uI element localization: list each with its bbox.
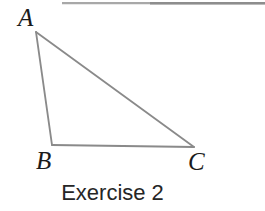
vertex-label-b: B (36, 148, 51, 173)
geometry-figure: A B C Exercise 2 (0, 0, 265, 211)
vertex-label-c: C (188, 149, 205, 174)
side-ca (36, 32, 194, 147)
vertex-label-a: A (18, 5, 33, 30)
side-bc (52, 145, 194, 147)
figure-caption: Exercise 2 (0, 180, 225, 205)
side-ab (36, 32, 52, 145)
